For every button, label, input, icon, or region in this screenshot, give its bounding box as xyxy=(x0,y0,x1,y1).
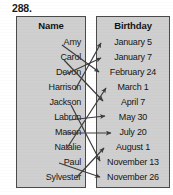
birthday-entry[interactable]: July 20 xyxy=(96,127,170,138)
birthday-entry[interactable]: May 30 xyxy=(96,112,170,123)
name-entry[interactable]: Labron xyxy=(54,112,81,123)
name-entry[interactable]: Paul xyxy=(64,157,81,168)
name-entry[interactable]: Carol xyxy=(60,52,81,63)
name-entry[interactable]: Harrison xyxy=(49,82,81,93)
birthday-entry[interactable]: March 1 xyxy=(96,82,170,93)
problem-number: 288. xyxy=(12,2,32,14)
name-entry[interactable]: Mason xyxy=(55,127,81,138)
name-entry[interactable]: Natalie xyxy=(54,142,81,153)
name-entry[interactable]: Sylvester xyxy=(46,172,81,183)
name-entry[interactable]: Jackson xyxy=(49,97,81,108)
birthday-column-header: Birthday xyxy=(97,20,169,31)
name-entry[interactable]: Amy xyxy=(64,37,81,48)
birthday-entry[interactable]: February 24 xyxy=(96,67,170,78)
birthday-entry[interactable]: August 1 xyxy=(96,142,170,153)
birthday-entry[interactable]: January 5 xyxy=(96,37,170,48)
worksheet-page: 288. Name Birthday AmyCarolDevonHarrison… xyxy=(0,0,173,195)
names-column-header: Name xyxy=(17,20,85,31)
birthday-entry[interactable]: April 7 xyxy=(96,97,170,108)
birthday-entry[interactable]: January 7 xyxy=(96,52,170,63)
name-entry[interactable]: Devon xyxy=(56,67,81,78)
birthday-entry[interactable]: November 13 xyxy=(96,157,170,168)
birthday-entry[interactable]: November 26 xyxy=(96,172,170,183)
